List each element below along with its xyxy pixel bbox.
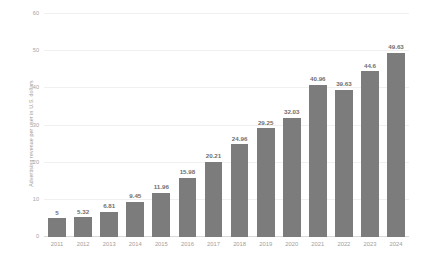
bar-slot: 11.96 (148, 14, 174, 237)
y-tick-label: 0 (36, 233, 39, 239)
bar-slot: 15.98 (174, 14, 200, 237)
y-tick-label: 50 (33, 47, 39, 53)
bar-value-label: 5.32 (77, 208, 89, 215)
bar-slot: 44.6 (357, 14, 383, 237)
x-tick-label: 2023 (357, 241, 383, 247)
x-tick-label: 2011 (44, 241, 70, 247)
bar-value-label: 11.96 (154, 183, 169, 190)
bar[interactable]: 49.63 (387, 53, 405, 237)
x-tick-label: 2018 (227, 241, 253, 247)
bar-slot: 49.63 (383, 14, 409, 237)
bar[interactable]: 6.81 (100, 212, 118, 237)
bar-value-label: 15.98 (180, 168, 195, 175)
bar[interactable]: 44.6 (361, 71, 379, 237)
bar-value-label: 49.63 (388, 43, 403, 50)
y-tick-label: 30 (33, 122, 39, 128)
bar-series: 55.326.819.4511.9615.9820.2124.9629.2532… (44, 14, 409, 237)
bar-slot: 6.81 (96, 14, 122, 237)
y-tick-label: 40 (33, 84, 39, 90)
bar-slot: 9.45 (122, 14, 148, 237)
x-tick-label: 2014 (122, 241, 148, 247)
bar[interactable]: 15.98 (179, 178, 197, 237)
y-tick-label: 60 (33, 10, 39, 16)
x-tick-label: 2013 (96, 241, 122, 247)
bar-value-label: 44.6 (364, 62, 376, 69)
bar-value-label: 5 (55, 209, 58, 216)
bar[interactable]: 11.96 (152, 193, 170, 237)
bar-value-label: 24.96 (232, 135, 247, 142)
bar-value-label: 20.21 (206, 152, 221, 159)
bar[interactable]: 29.25 (257, 128, 275, 237)
bar-value-label: 32.03 (284, 108, 299, 115)
bar-slot: 39.63 (331, 14, 357, 237)
bar[interactable]: 5 (48, 218, 66, 237)
bar[interactable]: 32.03 (283, 118, 301, 237)
x-tick-label: 2021 (305, 241, 331, 247)
x-tick-label: 2015 (148, 241, 174, 247)
bar[interactable]: 40.96 (309, 85, 327, 237)
bar[interactable]: 9.45 (126, 202, 144, 237)
bar-slot: 40.96 (305, 14, 331, 237)
x-tick-label: 2012 (70, 241, 96, 247)
y-axis-title: Advertising revenue per user in U.S. dol… (22, 0, 40, 267)
x-axis-labels: 2011201220132014201520162017201820192020… (44, 241, 409, 247)
bar-slot: 5 (44, 14, 70, 237)
bar-value-label: 39.63 (336, 80, 351, 87)
bar-value-label: 6.81 (103, 202, 115, 209)
y-tick-label: 10 (33, 196, 39, 202)
bar[interactable]: 39.63 (335, 90, 353, 237)
x-tick-label: 2022 (331, 241, 357, 247)
y-tick-label: 20 (33, 159, 39, 165)
bar-value-label: 9.45 (129, 192, 141, 199)
bar[interactable]: 24.96 (231, 144, 249, 237)
bar-value-label: 29.25 (258, 119, 273, 126)
bar[interactable]: 20.21 (205, 162, 223, 237)
x-tick-label: 2019 (253, 241, 279, 247)
bar-chart: Advertising revenue per user in U.S. dol… (0, 0, 433, 267)
bar-slot: 24.96 (227, 14, 253, 237)
x-tick-label: 2020 (279, 241, 305, 247)
bar-slot: 32.03 (279, 14, 305, 237)
bar-slot: 20.21 (200, 14, 226, 237)
bar-slot: 5.32 (70, 14, 96, 237)
bar-slot: 29.25 (253, 14, 279, 237)
x-tick-label: 2024 (383, 241, 409, 247)
bar-value-label: 40.96 (310, 75, 325, 82)
x-tick-label: 2017 (200, 241, 226, 247)
plot-area: 0102030405060 55.326.819.4511.9615.9820.… (44, 14, 409, 237)
bar[interactable]: 5.32 (74, 217, 92, 237)
x-tick-label: 2016 (174, 241, 200, 247)
